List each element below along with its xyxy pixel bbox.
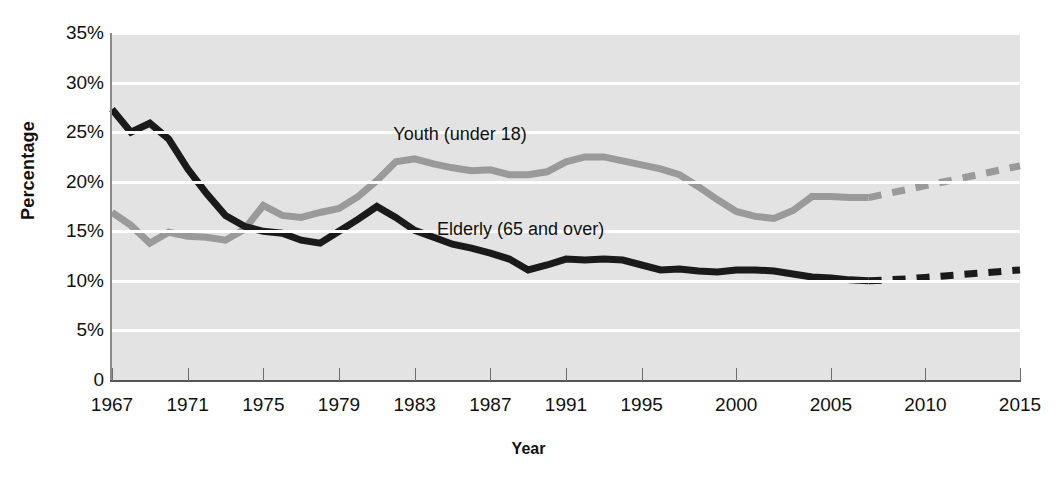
x-tick-mark [112, 368, 113, 381]
y-tick-label: 15% [4, 220, 104, 242]
y-tick-label: 0 [4, 369, 104, 391]
x-tick-label: 2005 [810, 394, 852, 416]
x-tick-mark [415, 368, 416, 381]
x-tick-mark [642, 368, 643, 381]
x-tick-mark [831, 368, 832, 381]
y-tick-label: 5% [4, 319, 104, 341]
y-tick-label: 30% [4, 72, 104, 94]
gridline [112, 32, 1020, 35]
x-tick-label: 1995 [621, 394, 663, 416]
poverty-rate-line-chart: Percentage 05%10%15%20%25%30%35% 1967197… [0, 0, 1057, 486]
gridline [112, 82, 1020, 85]
x-tick-label: 1975 [242, 394, 284, 416]
gridline [112, 329, 1020, 332]
gridline [112, 131, 1020, 134]
y-axis-line [110, 33, 112, 381]
y-tick-label: 25% [4, 121, 104, 143]
series-label-0: Youth (under 18) [393, 124, 526, 145]
x-tick-mark [1020, 368, 1021, 381]
y-tick-label: 10% [4, 270, 104, 292]
x-tick-label: 1983 [394, 394, 436, 416]
x-tick-label: 2015 [999, 394, 1041, 416]
x-tick-mark [263, 368, 264, 381]
gridline [112, 280, 1020, 283]
x-tick-label: 1971 [167, 394, 209, 416]
x-tick-label: 2010 [904, 394, 946, 416]
gridline [112, 181, 1020, 184]
x-tick-mark [566, 368, 567, 381]
x-tick-mark [188, 368, 189, 381]
series-label-1: Elderly (65 and over) [437, 219, 604, 240]
x-tick-mark [736, 368, 737, 381]
x-tick-label: 2000 [715, 394, 757, 416]
y-axis-tick-labels: 05%10%15%20%25%30%35% [0, 0, 104, 486]
x-tick-label: 1991 [545, 394, 587, 416]
x-axis-title: Year [0, 440, 1057, 458]
x-tick-mark [339, 368, 340, 381]
y-tick-label: 20% [4, 171, 104, 193]
x-tick-mark [925, 368, 926, 381]
x-tick-mark [490, 368, 491, 381]
x-tick-label: 1979 [318, 394, 360, 416]
series-lines [112, 33, 1020, 380]
plot-area [112, 33, 1020, 380]
y-tick-label: 35% [4, 22, 104, 44]
x-tick-label: 1967 [91, 394, 133, 416]
x-tick-label: 1987 [469, 394, 511, 416]
